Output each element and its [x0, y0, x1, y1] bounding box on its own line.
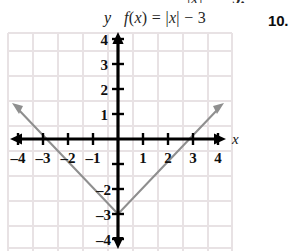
y-tick-label: –4: [95, 232, 112, 248]
y-tick-label: 1: [101, 107, 109, 123]
worksheet-page: |x| 9. y f(x) = |x| − 3 10.: [0, 0, 308, 251]
x-tick-label: 3: [189, 150, 197, 166]
coordinate-plane: –4 –3 –2 –1 1 2 3 4 4 3 2 1 –2 –3 –4 x: [0, 0, 308, 251]
x-axis-arrow-left: [10, 133, 22, 144]
grid-lines: [8, 33, 232, 251]
x-axis-label: x: [231, 131, 239, 147]
y-tick-label: –3: [95, 207, 111, 223]
y-tick-label: 2: [101, 82, 109, 98]
y-tick-label: 4: [101, 32, 109, 48]
x-tick-label: 1: [139, 150, 147, 166]
graph-svg: –4 –3 –2 –1 1 2 3 4 4 3 2 1 –2 –3 –4 x: [0, 0, 308, 251]
x-axis-arrow-right: [214, 133, 226, 144]
x-tick-label: –1: [85, 150, 101, 166]
x-tick-label: –2: [60, 150, 76, 166]
x-tick-label: 2: [164, 150, 172, 166]
y-tick-label: –2: [95, 182, 111, 198]
y-tick-label: 3: [101, 57, 109, 73]
x-tick-label: –4: [10, 150, 27, 166]
x-tick-label: 4: [214, 150, 222, 166]
x-tick-label: –3: [35, 150, 51, 166]
